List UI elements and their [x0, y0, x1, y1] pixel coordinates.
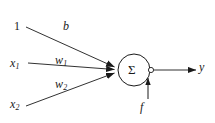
weight-label-w2-subscript: 2 — [63, 83, 67, 92]
input-label-x2-subscript: 2 — [15, 103, 19, 112]
diagram-canvas — [0, 0, 215, 123]
edge-w2-line — [26, 73, 115, 106]
weight-label-w2: w2 — [55, 78, 67, 92]
activation-function-label: f — [140, 101, 143, 113]
summation-symbol: Σ — [128, 63, 136, 76]
input-label-x1-subscript: 1 — [15, 62, 19, 71]
weight-label-w2-base: w — [55, 77, 63, 91]
input-label-x1: x1 — [10, 57, 19, 71]
weight-label-w1-base: w — [55, 53, 63, 67]
weight-label-w1-subscript: 1 — [63, 59, 67, 68]
edge-bias-line — [26, 27, 115, 67]
output-junction-dot — [148, 67, 153, 72]
output-label-y: y — [199, 61, 204, 73]
weight-label-w1: w1 — [55, 54, 67, 68]
weight-label-bias: b — [63, 20, 69, 32]
input-label-x2: x2 — [10, 98, 19, 112]
input-label-bias: 1 — [14, 20, 20, 32]
edge-w1-line — [28, 63, 115, 70]
neuron-diagram: 1 x1 x2 b w1 w2 Σ f y — [0, 0, 215, 123]
